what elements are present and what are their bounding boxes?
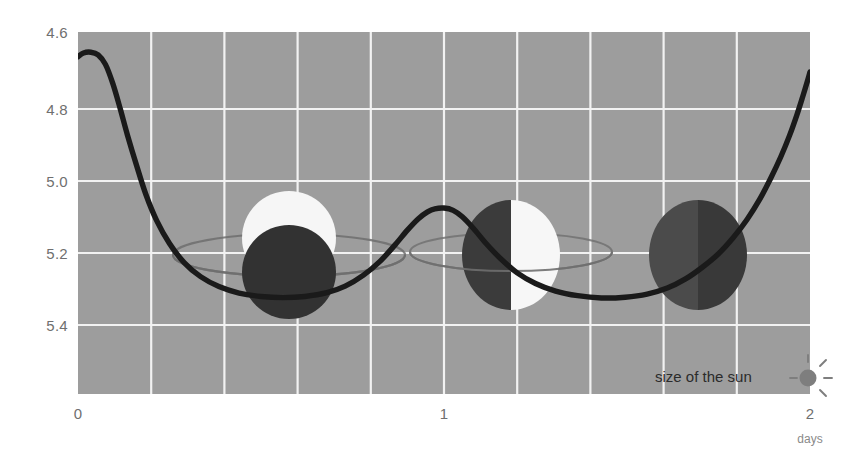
illustration-phase-3 xyxy=(649,200,747,310)
sun-icon xyxy=(790,355,832,396)
vertical-gridlines xyxy=(151,32,737,394)
y-tick-label-1: 4.8 xyxy=(14,101,68,118)
y-tick-label-4: 5.4 xyxy=(14,317,68,334)
planet-disk-1 xyxy=(242,225,336,319)
y-tick-label-3: 5.2 xyxy=(14,245,68,262)
y-tick-label-2: 5.0 xyxy=(14,173,68,190)
chart-canvas xyxy=(0,0,867,471)
x-tick-label-1: 1 xyxy=(424,405,464,422)
illustration-phase-2 xyxy=(410,200,612,310)
y-tick-label-0: 4.6 xyxy=(14,24,68,41)
chart-figure: 4.6 4.8 5.0 5.2 5.4 0 1 2 days size of t… xyxy=(0,0,867,471)
x-tick-label-2: 2 xyxy=(790,405,830,422)
x-axis-unit-label: days xyxy=(780,432,840,446)
sun-size-legend-label: size of the sun xyxy=(655,368,752,385)
x-tick-label-0: 0 xyxy=(58,405,98,422)
